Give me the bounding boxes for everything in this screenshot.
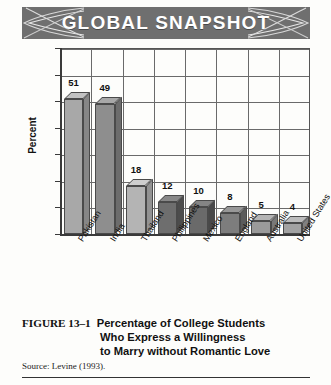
- gridline-vertical: [154, 49, 155, 234]
- bar-value-label: 12: [158, 180, 177, 191]
- y-axis-tick-mark: [55, 207, 60, 208]
- plot-area: 5149181210854: [60, 48, 310, 234]
- banner-title: GLOBAL SNAPSHOT: [22, 7, 310, 39]
- gridline-vertical: [279, 49, 280, 234]
- gridline-vertical: [91, 49, 92, 234]
- figure-caption: FIGURE 13–1Percentage of College Student…: [22, 316, 322, 359]
- banner: GLOBAL SNAPSHOT: [22, 7, 310, 39]
- caption-line-2: Who Express a Willingness: [22, 330, 322, 344]
- caption-line-3: to Marry without Romantic Love: [22, 344, 322, 358]
- bar-value-label: 49: [95, 82, 114, 93]
- y-axis-label: Percent: [27, 117, 38, 154]
- caption-line-1: Percentage of College Students: [97, 317, 265, 329]
- bar-value-label: 10: [189, 185, 208, 196]
- global-snapshot-figure: GLOBAL SNAPSHOT Percent 5149181210854 01…: [0, 0, 331, 385]
- y-axis-tick-mark: [55, 128, 60, 129]
- bar-value-label: 51: [64, 77, 83, 88]
- bar: 18: [126, 186, 145, 234]
- y-axis: [60, 48, 62, 234]
- bar-front-face: [64, 99, 83, 235]
- bottom-rule: [22, 377, 310, 378]
- bar: 51: [64, 99, 83, 235]
- y-axis-tick-mark: [55, 154, 60, 155]
- figure-number: FIGURE 13–1: [22, 317, 91, 329]
- y-axis-tick-mark: [55, 181, 60, 182]
- gridline-vertical: [216, 49, 217, 234]
- bar-chart: Percent 5149181210854 010203040506070Pak…: [0, 42, 331, 312]
- bar-side-face: [83, 91, 90, 234]
- source-note: Source: Levine (1993).: [22, 361, 105, 371]
- y-axis-tick-mark: [55, 75, 60, 76]
- gridline-vertical: [248, 49, 249, 234]
- bar-side-face: [115, 97, 122, 234]
- y-axis-tick-mark: [55, 48, 60, 49]
- bar-front-face: [126, 186, 145, 234]
- gridline-vertical: [185, 49, 186, 234]
- bar-value-label: 5: [251, 199, 270, 210]
- y-axis-tick-mark: [55, 234, 60, 235]
- gridline-vertical: [123, 49, 124, 234]
- bar-value-label: 18: [126, 164, 145, 175]
- bar-value-label: 8: [220, 191, 239, 202]
- y-axis-tick-mark: [55, 101, 60, 102]
